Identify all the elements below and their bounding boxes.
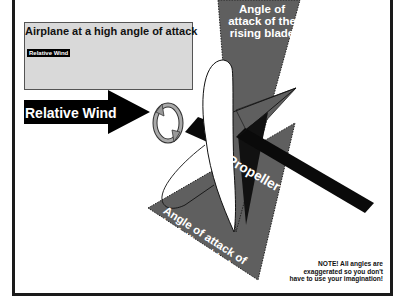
inset-title: Airplane at a high angle of attack <box>25 25 192 37</box>
note-line3: have to use your imagination! <box>233 275 383 283</box>
rotation-arrows-icon <box>155 104 181 142</box>
inset-relative-wind-label: Relative Wind <box>27 49 70 57</box>
note-line2: exaggerated so you don't <box>233 268 383 276</box>
airplane-inset: Airplane at a high angle of attack Relat… <box>24 22 193 90</box>
note-line1: NOTE! All angles are <box>233 260 383 268</box>
rising-blade-label: Angle of attack of the rising blade <box>222 3 302 39</box>
relative-wind-label: Relative Wind <box>25 105 117 121</box>
note-text: NOTE! All angles are exaggerated so you … <box>233 260 383 283</box>
